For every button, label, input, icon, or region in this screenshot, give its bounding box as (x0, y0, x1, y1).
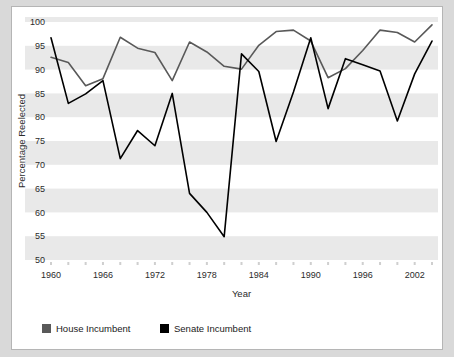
y-tick-label: 55 (35, 231, 45, 241)
y-tick-label: 70 (35, 160, 45, 170)
chart-card: 50556065707580859095100 1960196619721978… (11, 6, 443, 350)
x-tick-mark (379, 262, 381, 265)
x-tick-mark (171, 262, 173, 265)
chart-legend: House IncumbentSenate Incumbent (42, 323, 251, 334)
x-tick-mark (396, 262, 398, 265)
x-tick-label: 2002 (405, 270, 425, 280)
y-tick-label: 100 (30, 17, 45, 27)
legend-item: House Incumbent (42, 323, 131, 334)
x-tick-mark (292, 262, 294, 265)
x-tick-label: 1978 (197, 270, 217, 280)
legend-swatch (42, 324, 51, 333)
legend-item: Senate Incumbent (160, 323, 251, 334)
x-tick-mark (362, 262, 364, 265)
line-chart: 50556065707580859095100 1960196619721978… (12, 7, 444, 351)
x-axis-title: Year (232, 288, 251, 299)
x-tick-mark (102, 262, 104, 265)
x-tick-mark (154, 262, 156, 265)
x-tick-label: 1996 (353, 270, 373, 280)
x-tick-mark (206, 262, 208, 265)
x-tick-mark (431, 262, 433, 265)
x-tick-mark (414, 262, 416, 265)
x-tick-mark (137, 262, 139, 265)
x-tick-mark (327, 262, 329, 265)
x-tick-mark (119, 262, 121, 265)
y-tick-label: 80 (35, 112, 45, 122)
x-tick-label: 1984 (249, 270, 269, 280)
x-tick-label: 1972 (145, 270, 165, 280)
y-tick-label: 65 (35, 184, 45, 194)
x-tick-mark (241, 262, 243, 265)
y-tick-label: 75 (35, 136, 45, 146)
x-tick-mark (310, 262, 312, 265)
plot-area: 50556065707580859095100 1960196619721978… (12, 7, 444, 351)
x-tick-mark (344, 262, 346, 265)
y-tick-label: 85 (35, 89, 45, 99)
x-tick-mark (223, 262, 225, 265)
legend-label: House Incumbent (56, 323, 131, 334)
y-tick-label: 95 (35, 41, 45, 51)
y-tick-label: 50 (35, 255, 45, 265)
x-tick-mark (85, 262, 87, 265)
chart-screenshot: 50556065707580859095100 1960196619721978… (0, 0, 454, 357)
y-axis-title: Percentage Reelected (16, 94, 27, 188)
x-tick-label: 1990 (301, 270, 321, 280)
legend-label: Senate Incumbent (174, 323, 251, 334)
x-tick-mark (258, 262, 260, 265)
x-tick-label: 1966 (93, 270, 113, 280)
x-tick-label: 1960 (41, 270, 61, 280)
legend-swatch (160, 324, 169, 333)
x-tick-mark (50, 262, 52, 265)
x-tick-mark (67, 262, 69, 265)
y-tick-label: 90 (35, 65, 45, 75)
x-tick-mark (189, 262, 191, 265)
x-tick-mark (275, 262, 277, 265)
y-tick-label: 60 (35, 208, 45, 218)
